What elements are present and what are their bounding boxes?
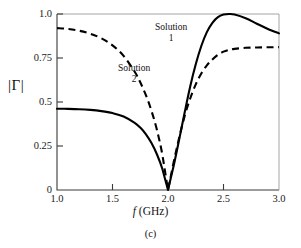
figure-container: 1.0 0.75 0.5 0.25 0 1.0 1.5 2.0 2.5 3.0 … <box>0 0 301 248</box>
y-tick-label-075: 0.75 <box>18 53 52 64</box>
x-tick-label-10: 1.0 <box>43 194 71 205</box>
annotation-solution-2: Solution 2 <box>118 63 150 84</box>
annotation-solution-1: Solution 1 <box>155 22 187 43</box>
tick-marks <box>57 14 224 190</box>
x-axis-title: f (GHz) <box>0 205 301 217</box>
x-axis-title-variable: f <box>133 205 136 217</box>
x-tick-label-15: 1.5 <box>99 194 127 205</box>
y-axis-title: |Γ| <box>8 78 24 93</box>
x-tick-label-25: 2.5 <box>210 194 238 205</box>
figure-caption: (c) <box>0 228 301 239</box>
x-axis-title-unit: (GHz) <box>139 205 168 217</box>
annotation-solution-2-line2: 2 <box>118 74 150 85</box>
y-tick-label-05: 0.5 <box>18 97 52 108</box>
annotation-solution-2-line1: Solution <box>118 63 150 74</box>
y-tick-label-1: 1.0 <box>18 9 52 20</box>
y-tick-label-025: 0.25 <box>18 141 52 152</box>
x-tick-label-20: 2.0 <box>154 194 182 205</box>
annotation-solution-1-line2: 1 <box>155 33 187 44</box>
annotation-solution-1-line1: Solution <box>155 22 187 33</box>
x-tick-label-30: 3.0 <box>265 194 293 205</box>
